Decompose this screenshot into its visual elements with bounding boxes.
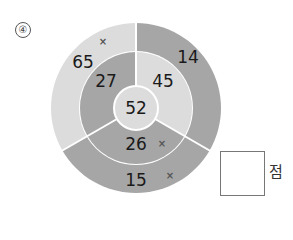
cross-mark-icon: ×	[166, 170, 174, 181]
outer-top-right-value: 14	[177, 47, 199, 67]
cross-mark-icon: ×	[99, 36, 107, 47]
outer-top-left-value: 65	[72, 52, 94, 72]
center-value: 52	[125, 98, 147, 118]
inner-bottom-value: 26	[125, 134, 147, 154]
inner-top-right-value: 45	[152, 71, 174, 91]
inner-top-left-value: 27	[95, 71, 117, 91]
cross-mark-icon: ×	[158, 138, 166, 149]
answer-input-box[interactable]	[220, 151, 265, 196]
outer-bottom-value: 15	[125, 170, 147, 190]
score-unit-label: 점	[269, 160, 283, 181]
